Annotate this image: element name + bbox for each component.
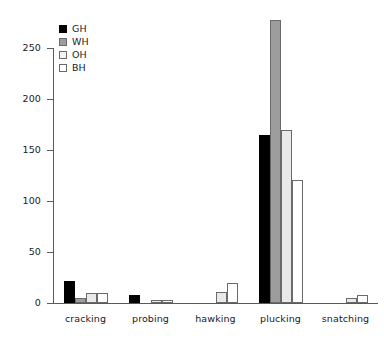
x-axis-line: [53, 303, 378, 304]
y-axis-tick: [47, 201, 53, 202]
legend-label: OH: [72, 50, 87, 60]
bar-plucking-bh: [292, 180, 303, 303]
y-axis-tick: [47, 252, 53, 253]
legend-swatch-wh-icon: [59, 38, 67, 46]
bar-plucking-oh: [281, 130, 292, 303]
bar-snatching-oh: [346, 298, 357, 303]
bar-snatching-bh: [357, 295, 368, 303]
legend: GHWHOHBH: [59, 23, 89, 75]
legend-label: WH: [72, 37, 89, 47]
y-axis-tick-label: 150: [1, 145, 41, 155]
x-axis-label-snatching: snatching: [301, 313, 384, 324]
bar-plucking-gh: [259, 135, 270, 303]
y-axis-tick-label: 0: [1, 298, 41, 308]
legend-item-wh[interactable]: WH: [59, 36, 89, 48]
y-axis-tick-label: 100: [1, 196, 41, 206]
legend-swatch-oh-icon: [59, 51, 67, 59]
y-axis-tick-label: 200: [1, 94, 41, 104]
y-axis-line: [53, 48, 54, 304]
y-axis-tick-label: 50: [1, 247, 41, 257]
bar-hawking-oh: [216, 292, 227, 303]
bar-plucking-wh: [270, 20, 281, 303]
bar-hawking-bh: [227, 283, 238, 303]
legend-label: GH: [72, 24, 87, 34]
legend-swatch-gh-icon: [59, 25, 67, 33]
bar-cracking-wh: [75, 298, 86, 303]
legend-label: BH: [72, 63, 86, 73]
legend-item-oh[interactable]: OH: [59, 49, 89, 61]
bar-cracking-gh: [64, 281, 75, 303]
bar-cracking-bh: [97, 293, 108, 303]
legend-swatch-bh-icon: [59, 64, 67, 72]
y-axis-tick: [47, 150, 53, 151]
y-axis-tick: [47, 48, 53, 49]
bar-probing-bh: [162, 300, 173, 303]
y-axis-tick-label: 250: [1, 43, 41, 53]
bar-chart: 050100150200250 crackingprobinghawkingpl…: [0, 0, 384, 342]
bar-probing-oh: [151, 300, 162, 303]
y-axis-tick: [47, 99, 53, 100]
legend-item-gh[interactable]: GH: [59, 23, 89, 35]
legend-item-bh[interactable]: BH: [59, 62, 89, 74]
bar-probing-gh: [129, 295, 140, 303]
plot-area: 050100150200250 crackingprobinghawkingpl…: [0, 0, 384, 342]
bar-cracking-oh: [86, 293, 97, 303]
